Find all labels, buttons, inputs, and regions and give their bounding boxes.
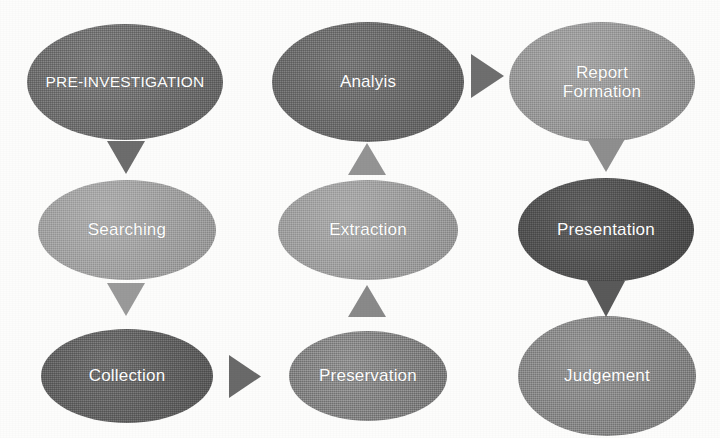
node-searching[interactable]: Searching [38, 180, 216, 280]
process-flow-diagram: PRE-INVESTIGATION Analyis Report Formati… [0, 0, 720, 438]
node-presentation[interactable]: Presentation [518, 178, 694, 282]
node-pre-investigation[interactable]: PRE-INVESTIGATION [27, 24, 223, 140]
arrow-down-icon [587, 281, 625, 317]
node-label: Analyis [334, 72, 402, 91]
node-label: Judgement [558, 366, 656, 385]
node-extraction[interactable]: Extraction [278, 180, 458, 280]
node-label: Presentation [551, 220, 661, 239]
node-label: Extraction [323, 220, 413, 239]
node-label: Report Formation [557, 63, 647, 101]
node-analyis[interactable]: Analyis [272, 22, 464, 142]
node-collection[interactable]: Collection [41, 329, 213, 423]
node-label: Collection [83, 366, 172, 385]
node-label-line2: Formation [563, 82, 641, 101]
arrow-right-icon [471, 54, 504, 98]
node-label: Preservation [313, 366, 423, 385]
arrow-down-icon [107, 141, 145, 174]
arrow-down-icon [107, 283, 145, 316]
node-label-line1: Report [576, 63, 628, 82]
node-label: PRE-INVESTIGATION [40, 73, 211, 90]
node-report-formation[interactable]: Report Formation [509, 22, 695, 142]
arrow-right-icon [229, 355, 261, 398]
node-label: Searching [82, 220, 172, 239]
arrow-up-icon [348, 143, 386, 175]
arrow-up-icon [348, 285, 386, 317]
arrow-down-icon [587, 139, 625, 172]
node-judgement[interactable]: Judgement [518, 316, 696, 436]
node-preservation[interactable]: Preservation [289, 331, 447, 421]
